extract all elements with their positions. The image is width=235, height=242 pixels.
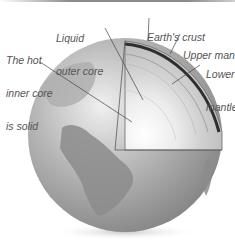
label-liquid-outer-core: Liquid outer core	[56, 11, 103, 88]
label-inner-core: The hot inner core is solid	[6, 33, 53, 143]
label-lower-mantle: Lower mantle	[206, 47, 235, 124]
